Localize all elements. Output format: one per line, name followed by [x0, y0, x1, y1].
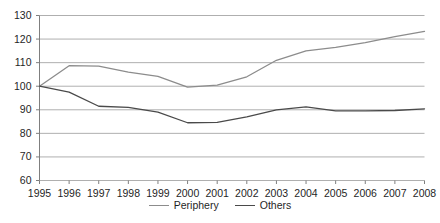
x-axis-tick-marks — [40, 181, 425, 185]
legend-item-periphery[interactable]: Periphery — [149, 200, 219, 211]
y-axis-tick-label: 130 — [0, 10, 32, 21]
series-line-periphery — [40, 31, 425, 87]
legend-line-swatch-icon — [235, 205, 255, 206]
y-axis-tick-label: 120 — [0, 34, 32, 45]
x-axis-tick-label: 2008 — [408, 188, 440, 199]
y-axis-tick-label: 110 — [0, 57, 32, 68]
y-axis-tick-label: 60 — [0, 175, 32, 186]
series-line-others — [40, 86, 425, 123]
legend-line-swatch-icon — [149, 205, 169, 206]
line-chart: 13012011010090807060 1995199619971998199… — [0, 0, 440, 223]
chart-legend: PeripheryOthers — [0, 200, 440, 211]
legend-item-others[interactable]: Others — [235, 200, 292, 211]
gridlines — [40, 16, 425, 181]
y-axis-tick-label: 100 — [0, 81, 32, 92]
y-axis-tick-label: 80 — [0, 128, 32, 139]
y-axis-tick-label: 70 — [0, 151, 32, 162]
legend-item-label: Others — [260, 200, 292, 211]
axis-lines — [36, 16, 40, 181]
data-series-group — [40, 31, 425, 122]
y-axis-tick-label: 90 — [0, 104, 32, 115]
legend-item-label: Periphery — [174, 200, 219, 211]
